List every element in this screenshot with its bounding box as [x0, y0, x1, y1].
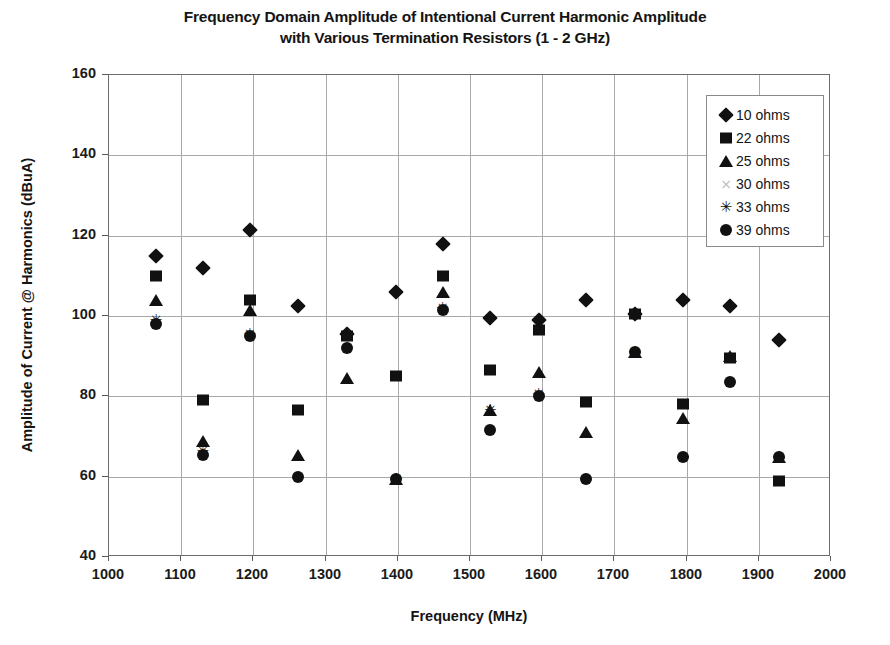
marker-square: [629, 308, 641, 319]
x-axis-tick: [397, 556, 398, 561]
legend-swatch: [717, 128, 735, 148]
gridline-vertical: [253, 75, 254, 555]
marker-square: [341, 331, 353, 342]
marker-diamond: [771, 332, 787, 348]
legend-swatch: [717, 151, 735, 171]
marker-triangle: [772, 451, 786, 463]
x-axis-tick: [325, 556, 326, 561]
marker-star: ✳: [724, 376, 737, 389]
chart-container: Frequency Domain Amplitude of Intentiona…: [0, 0, 890, 645]
marker-x: ×: [773, 450, 785, 463]
marker-triangle: [340, 372, 354, 384]
x-axis-tick: [686, 556, 687, 561]
gridline-vertical: [326, 75, 327, 555]
y-axis-tick-label: 80: [34, 386, 96, 402]
x-axis-tick: [108, 556, 109, 561]
legend-item-22-ohms[interactable]: 22 ohms: [717, 126, 823, 149]
marker-x: ×: [580, 472, 592, 485]
marker-square: [724, 353, 736, 364]
gridline-vertical: [398, 75, 399, 555]
y-axis-tick: [102, 476, 108, 477]
marker-x: ×: [197, 446, 209, 459]
gridline-vertical: [470, 75, 471, 555]
gridline-vertical: [614, 75, 615, 555]
legend-item-39-ohms[interactable]: 39 ohms: [717, 218, 823, 241]
legend-item-30-ohms[interactable]: ×30 ohms: [717, 172, 823, 195]
gridline-horizontal: [109, 316, 829, 317]
x-axis-tick-label: 1400: [362, 566, 432, 582]
marker-circle: [437, 304, 449, 316]
marker-diamond: [482, 310, 498, 326]
x-axis-tick-label: 1100: [145, 566, 215, 582]
legend-swatch: [717, 220, 735, 240]
marker-diamond: [148, 248, 164, 264]
y-axis-tick: [102, 395, 108, 396]
marker-star: ✳: [341, 342, 354, 355]
marker-x: ×: [629, 346, 641, 359]
legend-swatch: ✳: [717, 197, 735, 217]
marker-diamond: [627, 306, 643, 322]
marker-x: ×: [720, 177, 732, 190]
marker-diamond: [195, 260, 211, 276]
marker-diamond: [339, 326, 355, 342]
x-axis-tick: [469, 556, 470, 561]
legend-item-label: 25 ohms: [736, 153, 790, 169]
marker-star: ✳: [773, 450, 786, 463]
marker-star: ✳: [390, 472, 403, 485]
marker-circle: [484, 424, 496, 436]
legend-item-label: 22 ohms: [736, 130, 790, 146]
marker-triangle: [243, 304, 257, 316]
y-axis-tick: [102, 154, 108, 155]
legend-item-label: 39 ohms: [736, 222, 790, 238]
x-axis-tick-label: 1000: [73, 566, 143, 582]
marker-circle: [150, 318, 162, 330]
legend-item-25-ohms[interactable]: 25 ohms: [717, 149, 823, 172]
marker-diamond: [675, 292, 691, 308]
marker-square: [484, 365, 496, 376]
y-axis-tick: [102, 315, 108, 316]
gridline-horizontal: [109, 396, 829, 397]
gridline-vertical: [181, 75, 182, 555]
legend-swatch: [717, 105, 735, 125]
y-axis-tick: [102, 235, 108, 236]
marker-triangle: [628, 346, 642, 358]
legend-item-10-ohms[interactable]: 10 ohms: [717, 103, 823, 126]
x-axis-tick: [541, 556, 542, 561]
x-axis-tick-label: 1200: [217, 566, 287, 582]
marker-triangle: [389, 473, 403, 485]
x-axis-tick-label: 1900: [723, 566, 793, 582]
x-axis-title: Frequency (MHz): [108, 608, 830, 624]
x-axis-tick-label: 2000: [795, 566, 865, 582]
marker-triangle: [291, 449, 305, 461]
gridline-vertical: [687, 75, 688, 555]
marker-x: ×: [437, 303, 449, 316]
y-axis-tick-label: 60: [34, 467, 96, 483]
marker-square: [150, 270, 162, 281]
y-axis-title: Amplitude of Current @ Harmonics (dBuA): [19, 135, 35, 475]
marker-square: [292, 405, 304, 416]
x-axis-tick: [613, 556, 614, 561]
x-axis-tick: [180, 556, 181, 561]
marker-circle: [724, 376, 736, 388]
x-axis-tick-label: 1700: [578, 566, 648, 582]
x-axis-tick-label: 1600: [506, 566, 576, 582]
marker-triangle: [719, 155, 733, 167]
legend-swatch: ×: [717, 174, 735, 194]
chart-legend: 10 ohms22 ohms25 ohms×30 ohms✳33 ohms39 …: [706, 95, 824, 247]
chart-title: Frequency Domain Amplitude of Intentiona…: [0, 6, 890, 48]
x-axis-tick: [830, 556, 831, 561]
x-axis-tick: [252, 556, 253, 561]
legend-item-33-ohms[interactable]: ✳33 ohms: [717, 195, 823, 218]
legend-item-label: 10 ohms: [736, 107, 790, 123]
marker-triangle: [723, 350, 737, 362]
marker-circle: [629, 346, 641, 358]
marker-triangle: [196, 435, 210, 447]
y-axis-tick-label: 140: [34, 145, 96, 161]
marker-square: [580, 397, 592, 408]
marker-circle: [720, 224, 732, 236]
marker-circle: [580, 473, 592, 485]
marker-star: ✳: [484, 404, 497, 417]
marker-square: [720, 132, 732, 143]
marker-diamond: [290, 298, 306, 314]
marker-triangle: [579, 426, 593, 438]
